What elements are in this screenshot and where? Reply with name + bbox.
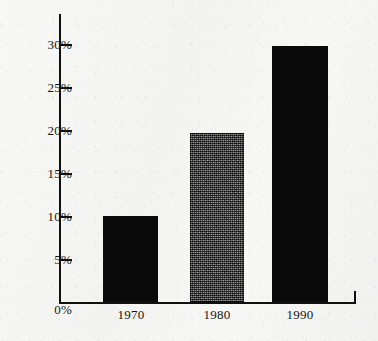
x-tick-label-1980: 1980 [184, 308, 250, 322]
y-tick-label-15: 15% [16, 167, 72, 180]
y-tick-label-0: 0% [16, 303, 72, 316]
y-tick-label-20: 20% [16, 124, 72, 137]
x-axis-end-tick [354, 291, 356, 304]
bar-1990[interactable] [272, 46, 328, 302]
bar-1970[interactable] [103, 216, 158, 302]
scanned-page-background: 30% 25% 20% 15% 10% 5% 0% 1970 1980 1990 [0, 0, 378, 341]
bar-chart: 30% 25% 20% 15% 10% 5% 0% 1970 1980 1990 [0, 0, 378, 341]
y-tick-label-25: 25% [16, 81, 72, 94]
bar-1980[interactable] [190, 133, 244, 302]
y-tick-label-5: 5% [16, 253, 72, 266]
y-tick-label-10: 10% [16, 210, 72, 223]
x-tick-label-1970: 1970 [98, 308, 164, 322]
x-tick-label-1990: 1990 [267, 308, 333, 322]
y-tick-label-30: 30% [16, 38, 72, 51]
x-axis-line [59, 302, 356, 304]
